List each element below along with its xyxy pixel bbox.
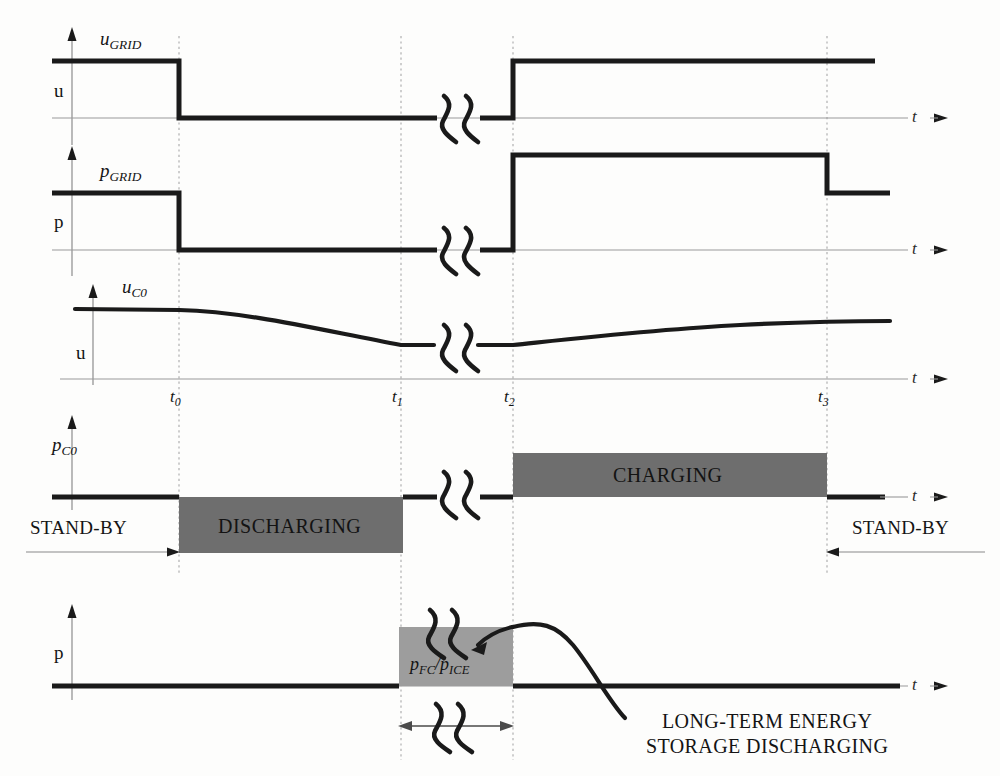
time-axis-label-3: t: [912, 369, 917, 386]
trace-u-grid: [52, 27, 948, 145]
axis-label-u-2: u: [76, 343, 86, 362]
standby-left-label: STAND-BY: [30, 518, 127, 537]
timing-diagram: uGRID u pGRID p uC0 u pC0 p t0 t1 t2 t3 …: [0, 0, 1000, 776]
p-grid-v-axis-arrowhead: [68, 146, 77, 160]
axis-label-p-1: p: [54, 212, 64, 231]
p-c0-break-symbol: [442, 472, 478, 518]
axis-label-u-1: u: [54, 81, 64, 100]
u-grid-v-axis-arrowhead: [68, 27, 77, 41]
p-fc-ice-label: pFC/pICE: [410, 655, 469, 673]
p-grid-break-symbol: [442, 228, 478, 274]
callout-line-1: LONG-TERM ENERGY: [646, 709, 888, 734]
discharging-label: DISCHARGING: [218, 515, 361, 538]
tick-label-t1: t1: [392, 388, 403, 405]
u-c0-break-symbol: [442, 325, 478, 371]
time-axis-label-1: t: [912, 108, 917, 125]
tick-label-t3: t3: [818, 388, 829, 405]
tick-label-t2: t2: [504, 388, 515, 405]
diagram-canvas: [0, 0, 1000, 776]
label-p-c0: pC0: [52, 435, 77, 454]
trace-p-c0: [26, 415, 985, 557]
axis-label-p-2: p: [54, 643, 64, 662]
dimension-break-symbol: [434, 704, 472, 752]
callout-line-2: STORAGE DISCHARGING: [646, 734, 888, 759]
trace-p-grid: [52, 146, 948, 276]
label-u-grid: uGRID: [100, 29, 141, 48]
time-axis-label-2: t: [912, 240, 917, 257]
time-axis-label-4: t: [912, 487, 917, 504]
u-grid-waveform: [52, 61, 875, 118]
u-c0-v-axis-arrowhead: [89, 284, 98, 298]
label-p-grid: pGRID: [100, 161, 141, 180]
long-term-decay-curve: [513, 624, 625, 718]
charging-label: CHARGING: [613, 464, 723, 487]
standby-left-leader: [26, 548, 180, 557]
standby-right-leader: [826, 548, 985, 557]
p-fc-v-axis-arrowhead: [68, 604, 77, 618]
trace-u-c0: [60, 284, 948, 385]
tick-label-t0: t0: [170, 388, 181, 405]
time-axis-label-5: t: [912, 676, 917, 693]
u-grid-break-symbol: [442, 96, 478, 142]
label-u-c0: uC0: [122, 277, 147, 296]
long-term-callout: LONG-TERM ENERGY STORAGE DISCHARGING: [646, 709, 888, 759]
p-c0-v-axis-arrowhead: [68, 415, 77, 429]
standby-right-label: STAND-BY: [852, 518, 949, 537]
u-c0-waveform: [75, 309, 890, 345]
